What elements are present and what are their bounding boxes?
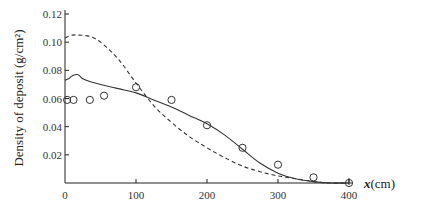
x-tick-label: 200 — [199, 189, 216, 201]
data-point — [168, 96, 175, 103]
y-tick-label: 0.06 — [43, 93, 63, 105]
y-tick-label: 0.10 — [43, 36, 63, 48]
series-layer — [64, 35, 353, 187]
data-point — [100, 92, 107, 99]
x-tick-label: 300 — [270, 189, 287, 201]
y-tick-label: 0.08 — [43, 64, 63, 76]
y-axis-title: Density of deposit (g/cm²) — [11, 29, 26, 166]
data-point — [274, 161, 281, 168]
x-axis-ticks: 0100200300400 — [62, 179, 358, 201]
y-tick-label: 0.04 — [43, 121, 63, 133]
data-point — [86, 96, 93, 103]
y-tick-label: 0.12 — [43, 8, 62, 20]
data-point — [310, 174, 317, 181]
x-axis-unit: (cm) — [371, 176, 396, 191]
y-tick-label: 0.02 — [43, 149, 62, 161]
data-point — [132, 84, 139, 91]
dashed-curve — [65, 35, 349, 183]
x-axis-title: x(cm) — [363, 176, 395, 191]
x-tick-label: 0 — [62, 189, 68, 201]
density-chart: 0.020.040.060.080.100.12 0100200300400 D… — [0, 0, 422, 209]
x-tick-label: 400 — [341, 189, 358, 201]
measured-points — [64, 84, 353, 187]
x-tick-label: 100 — [128, 189, 145, 201]
